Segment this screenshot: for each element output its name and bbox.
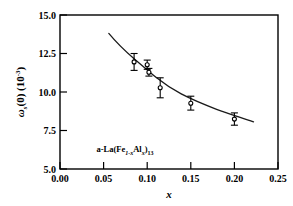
fitted-decay-curve — [109, 33, 254, 121]
x-tick-label-0-25: 0.25 — [269, 173, 287, 184]
x-tick-label-0-05: 0.05 — [95, 173, 113, 184]
y-tick-label-7-5: 7.5 — [44, 125, 57, 136]
y-axis-title-units-close: ) — [14, 66, 27, 70]
data-point-marker — [147, 70, 151, 74]
x-tick-label-0-10: 0.10 — [138, 173, 156, 184]
sample-composition-label: a-La(Fe1-xAlx)13 — [96, 144, 153, 156]
composition-subscript-1-minus-x: 1-x — [125, 150, 133, 156]
y-axis-ticks — [60, 15, 67, 169]
data-point-marker — [232, 117, 236, 121]
x-axis-title: x — [165, 188, 172, 200]
y-axis-title-paren-zero: (0) — [14, 93, 27, 106]
data-point-marker — [145, 63, 149, 67]
x-tick-label-0-00: 0.00 — [51, 173, 69, 184]
data-point-marker — [189, 101, 193, 105]
y-axis-tick-labels: 15.0 12.5 10.0 7.5 5.0 — [39, 10, 57, 175]
plot-frame — [60, 15, 278, 169]
y-axis-title-units-open: (10 — [14, 76, 27, 94]
data-point-marker — [132, 60, 136, 64]
data-point-group — [157, 78, 164, 98]
data-point-group — [187, 96, 194, 110]
composition-prefix: a-La(Fe — [96, 144, 125, 154]
x-tick-label-0-15: 0.15 — [182, 173, 200, 184]
data-series-omega-s — [131, 54, 238, 126]
y-tick-label-12-5: 12.5 — [39, 48, 57, 59]
y-axis-title-omega: ω — [14, 109, 26, 117]
y-axis-title: ωs(0) (10-3) — [14, 66, 29, 117]
x-axis-ticks — [60, 162, 278, 169]
composition-subscript-13: 13 — [148, 150, 154, 156]
y-tick-label-15: 15.0 — [39, 10, 57, 21]
axes-border — [60, 15, 278, 169]
svg-text:ωs(0) (10-3): ωs(0) (10-3) — [14, 66, 29, 117]
x-axis-tick-labels: 0.00 0.05 0.10 0.15 0.20 0.25 — [51, 173, 287, 184]
x-tick-label-0-20: 0.20 — [226, 173, 244, 184]
data-point-marker — [158, 86, 162, 90]
figure-container: 15.0 12.5 10.0 7.5 5.0 0.00 0.05 0.10 0.… — [0, 0, 293, 206]
chart-canvas: 15.0 12.5 10.0 7.5 5.0 0.00 0.05 0.10 0.… — [0, 0, 293, 206]
y-tick-label-10: 10.0 — [39, 87, 57, 98]
